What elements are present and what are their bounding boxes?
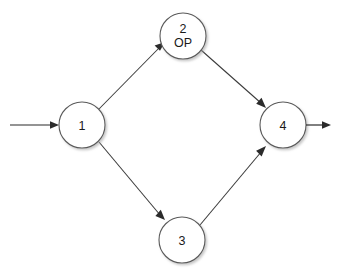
edge-3-to-4 bbox=[200, 146, 266, 225]
node-2-label: 2 bbox=[180, 22, 187, 36]
flow-graph-diagram: 1 2 OP 3 4 bbox=[0, 0, 337, 275]
edge-3-to-4-line bbox=[200, 152, 262, 226]
edge-2-to-4-arrowhead bbox=[256, 98, 266, 108]
edge-1-to-3-line bbox=[99, 142, 161, 216]
node-4-label: 4 bbox=[280, 119, 287, 133]
edge-1-to-3 bbox=[99, 142, 165, 220]
edge-3-to-4-arrowhead bbox=[256, 146, 266, 157]
exit-arrow bbox=[306, 121, 331, 128]
node-3-label: 3 bbox=[179, 234, 186, 248]
edge-1-to-2 bbox=[99, 42, 165, 109]
exit-arrow-head bbox=[322, 121, 331, 128]
node-2-sublabel: OP bbox=[174, 36, 192, 50]
node-1-label: 1 bbox=[79, 119, 86, 133]
entry-arrow bbox=[10, 121, 59, 128]
entry-arrow-head bbox=[50, 121, 59, 128]
edge-2-to-4 bbox=[201, 50, 266, 108]
edge-2-to-4-line bbox=[201, 50, 262, 104]
edge-1-to-2-line bbox=[99, 48, 160, 110]
